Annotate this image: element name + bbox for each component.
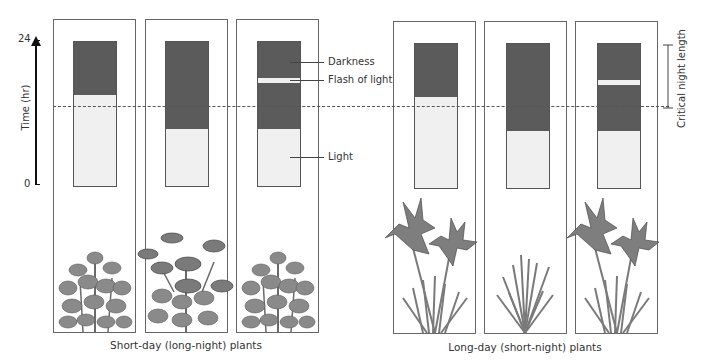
axis-label: Time (hr) xyxy=(20,73,31,143)
darkness-segment xyxy=(415,44,457,97)
chrysanthemum-vegetative-icon xyxy=(241,250,315,332)
short-day-caption: Short-day (long-night) plants xyxy=(79,339,293,351)
darkness-leader xyxy=(290,62,324,63)
axis-arrow-icon xyxy=(31,36,41,46)
flash-leader xyxy=(290,80,324,81)
darkness-segment xyxy=(507,44,549,131)
long-day-caption: Long-day (short-night) plants xyxy=(418,341,632,353)
light-leader xyxy=(290,157,324,158)
photoperiod-bar xyxy=(73,41,117,187)
photoperiod-bar xyxy=(506,43,550,189)
axis-tick-label-0: 0 xyxy=(24,178,30,189)
darkness-segment xyxy=(74,42,116,95)
photoperiod-bar xyxy=(414,43,458,189)
axis-tick-0 xyxy=(35,184,40,185)
darkness-segment xyxy=(258,42,300,129)
light-label: Light xyxy=(328,151,353,162)
chrysanthemum-vegetative-icon xyxy=(58,250,132,332)
critical-night-label: Critical night length xyxy=(676,29,687,129)
critical-night-dashed-line xyxy=(53,106,669,107)
chrysanthemum-flowering-icon xyxy=(138,232,236,332)
axis-tick-24 xyxy=(35,40,40,41)
axis-line xyxy=(35,44,37,184)
darkness-segment xyxy=(166,42,208,129)
iris-flowering-icon xyxy=(383,188,487,333)
iris-vegetative-icon xyxy=(495,245,555,333)
axis-tick-label-24: 24 xyxy=(18,33,31,44)
darkness-segment xyxy=(598,44,640,131)
photoperiod-bar xyxy=(597,43,641,189)
critical-night-bracket xyxy=(662,44,674,110)
iris-flowering-icon xyxy=(565,188,669,333)
photoperiod-bar xyxy=(165,41,209,187)
flash-label: Flash of light xyxy=(328,74,392,85)
flash-segment xyxy=(598,80,640,85)
darkness-label: Darkness xyxy=(328,56,375,67)
